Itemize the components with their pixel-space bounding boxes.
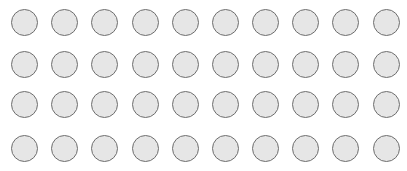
- circle-r4-c10: [373, 135, 400, 162]
- circle-r2-c6: [212, 51, 239, 78]
- circle-r1-c2: [51, 9, 78, 36]
- circle-r3-c5: [172, 91, 199, 118]
- circle-r3-c6: [212, 91, 239, 118]
- circle-r3-c10: [373, 91, 400, 118]
- circle-grid: [0, 0, 407, 171]
- circle-r3-c4: [132, 91, 159, 118]
- circle-r3-c2: [51, 91, 78, 118]
- circle-r1-c10: [373, 9, 400, 36]
- circle-r1-c4: [132, 9, 159, 36]
- circle-r2-c4: [132, 51, 159, 78]
- circle-r4-c6: [212, 135, 239, 162]
- circle-r4-c2: [51, 135, 78, 162]
- circle-r3-c3: [91, 91, 118, 118]
- circle-r3-c7: [252, 91, 279, 118]
- circle-r1-c6: [212, 9, 239, 36]
- circle-r1-c3: [91, 9, 118, 36]
- circle-r2-c7: [252, 51, 279, 78]
- circle-r1-c7: [252, 9, 279, 36]
- circle-r3-c1: [11, 91, 38, 118]
- circle-r4-c5: [172, 135, 199, 162]
- circle-r2-c1: [11, 51, 38, 78]
- circle-r4-c8: [292, 135, 319, 162]
- circle-r2-c9: [332, 51, 359, 78]
- circle-r1-c9: [332, 9, 359, 36]
- circle-r2-c8: [292, 51, 319, 78]
- circle-r4-c9: [332, 135, 359, 162]
- circle-r4-c1: [11, 135, 38, 162]
- circle-r4-c4: [132, 135, 159, 162]
- circle-r2-c3: [91, 51, 118, 78]
- circle-r2-c5: [172, 51, 199, 78]
- circle-r1-c5: [172, 9, 199, 36]
- circle-r1-c1: [11, 9, 38, 36]
- circle-r4-c3: [91, 135, 118, 162]
- circle-r3-c9: [332, 91, 359, 118]
- circle-r4-c7: [252, 135, 279, 162]
- circle-r2-c10: [373, 51, 400, 78]
- circle-r2-c2: [51, 51, 78, 78]
- circle-r3-c8: [292, 91, 319, 118]
- circle-r1-c8: [292, 9, 319, 36]
